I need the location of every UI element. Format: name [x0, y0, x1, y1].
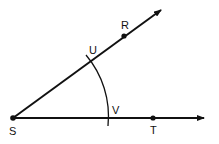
label-r: R [121, 19, 129, 31]
label-t: T [150, 124, 157, 136]
ray-sr [13, 10, 161, 118]
angle-diagram: S R U V T [0, 0, 219, 144]
label-v: V [112, 104, 120, 116]
label-s: S [9, 125, 16, 137]
point-r [121, 33, 126, 38]
label-u: U [89, 44, 97, 56]
compass-arc [86, 55, 108, 126]
diagram-canvas: S R U V T [0, 0, 219, 144]
point-t [150, 115, 155, 120]
point-s [10, 115, 16, 121]
